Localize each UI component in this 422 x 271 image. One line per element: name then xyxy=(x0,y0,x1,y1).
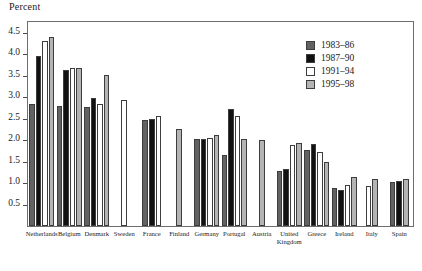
y-axis-tick-mark xyxy=(23,76,27,77)
bar xyxy=(241,139,247,226)
y-axis-tick-label: 4.0 xyxy=(8,47,20,57)
bar xyxy=(338,190,344,226)
bar xyxy=(259,140,265,226)
bar-group xyxy=(138,22,166,226)
bar xyxy=(403,179,409,226)
bar-group xyxy=(358,22,386,226)
bar xyxy=(63,70,69,226)
bar xyxy=(390,182,396,226)
bar-group xyxy=(28,22,56,226)
legend-item: 1983–86 xyxy=(306,39,354,51)
bar-group xyxy=(193,22,221,226)
bar xyxy=(332,188,338,226)
y-axis-tick-label: 3.0 xyxy=(8,90,20,100)
bar xyxy=(29,104,35,226)
legend-label: 1995–98 xyxy=(321,79,354,89)
legend-item: 1987–90 xyxy=(306,52,354,64)
y-axis-title: Percent xyxy=(9,1,40,12)
y-axis-tick-label: 4.5 xyxy=(8,26,20,36)
y-axis-tick-label: 3.5 xyxy=(8,69,20,79)
x-axis-label: Spain xyxy=(380,230,420,238)
y-axis-tick-label: 2.0 xyxy=(8,133,20,143)
bar xyxy=(214,135,220,226)
bar-group xyxy=(248,22,276,226)
bar xyxy=(324,162,330,226)
bar xyxy=(207,138,213,226)
bar-group xyxy=(111,22,139,226)
y-axis-tick-mark xyxy=(23,140,27,141)
y-axis-tick-mark xyxy=(23,54,27,55)
legend-swatch xyxy=(306,41,315,50)
bar xyxy=(76,68,82,226)
bar xyxy=(277,171,283,226)
bar xyxy=(176,129,182,226)
bar xyxy=(156,116,162,226)
y-axis-tick-mark xyxy=(23,205,27,206)
bar-group xyxy=(166,22,194,226)
bar xyxy=(149,119,155,226)
bar xyxy=(235,116,241,226)
bar xyxy=(91,98,97,226)
chart-legend: 1983–861987–901991–941995–98 xyxy=(306,39,354,91)
legend-item: 1995–98 xyxy=(306,78,354,90)
legend-item: 1991–94 xyxy=(306,65,354,77)
bar xyxy=(104,75,110,226)
bar xyxy=(97,104,103,226)
bar xyxy=(42,41,48,226)
bars-layer xyxy=(28,22,413,226)
bar xyxy=(222,155,228,226)
y-axis-tick-label: 2.5 xyxy=(8,112,20,122)
bar xyxy=(142,120,148,226)
bar xyxy=(304,150,310,226)
bar-group xyxy=(221,22,249,226)
legend-label: 1983–86 xyxy=(321,40,354,50)
bar xyxy=(57,106,63,226)
bar xyxy=(194,139,200,226)
bar xyxy=(201,139,207,226)
bar xyxy=(296,143,302,226)
y-axis-tick-mark xyxy=(23,33,27,34)
y-axis-tick-label: 0.5 xyxy=(8,198,20,208)
bar xyxy=(283,169,289,226)
bar xyxy=(84,107,90,226)
bar xyxy=(396,181,402,226)
legend-swatch xyxy=(306,80,315,89)
bar xyxy=(351,177,357,226)
bar xyxy=(49,37,55,226)
bar xyxy=(366,186,372,226)
y-axis-tick-mark xyxy=(23,183,27,184)
bar xyxy=(317,152,323,226)
y-axis-tick-label: 1.5 xyxy=(8,155,20,165)
y-axis-tick-mark xyxy=(23,119,27,120)
bar xyxy=(228,109,234,226)
bar xyxy=(345,185,351,226)
legend-label: 1991–94 xyxy=(321,66,354,76)
bar-group xyxy=(56,22,84,226)
legend-label: 1987–90 xyxy=(321,53,354,63)
bar-group xyxy=(276,22,304,226)
bar-chart: Percent 0.51.01.52.02.53.03.54.04.5 Neth… xyxy=(0,0,422,271)
bar xyxy=(290,145,296,226)
bar-group xyxy=(386,22,414,226)
bar xyxy=(121,100,127,226)
bar xyxy=(36,56,42,226)
legend-swatch xyxy=(306,54,315,63)
y-axis-tick-label: 1.0 xyxy=(8,176,20,186)
bar xyxy=(311,144,317,226)
y-axis-tick-mark xyxy=(23,162,27,163)
bar xyxy=(372,179,378,226)
bar-group xyxy=(83,22,111,226)
legend-swatch xyxy=(306,67,315,76)
y-axis-tick-mark xyxy=(23,97,27,98)
bar xyxy=(70,68,76,226)
